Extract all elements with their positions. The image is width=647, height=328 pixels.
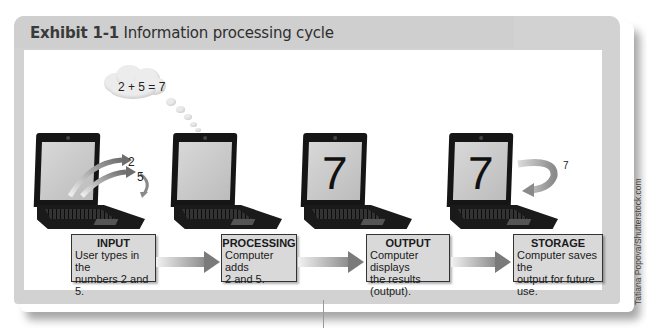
storage-arrow-icon xyxy=(516,158,566,198)
step-output-title: OUTPUT xyxy=(367,237,449,249)
thought-trail-icon xyxy=(184,114,192,120)
photo-credit: Tatiana Popova/Shutterstock.com xyxy=(633,178,643,305)
step-input-title: INPUT xyxy=(72,237,155,249)
step-storage-line2: output for future use. xyxy=(514,273,602,297)
step-input-line2: numbers 2 and 5. xyxy=(72,273,155,297)
step-storage-box: STORAGE Computer saves the output for fu… xyxy=(513,234,603,282)
thought-trail-icon xyxy=(195,128,201,132)
step-input-box: INPUT User types in the numbers 2 and 5. xyxy=(71,234,156,282)
input-value-2: 2 xyxy=(128,155,135,169)
exhibit-title: Exhibit 1-1 Information processing cycle xyxy=(30,24,334,42)
thought-trail-icon xyxy=(176,106,185,113)
arrow-right-icon xyxy=(298,253,364,271)
step-output-box: OUTPUT Computer displays the results (ou… xyxy=(366,234,450,282)
step-processing-box: PROCESSING Computer adds 2 and 5. xyxy=(221,234,297,282)
storage-value-7: 7 xyxy=(563,160,569,171)
input-arrows-icon xyxy=(60,150,160,200)
step-input-line1: User types in the xyxy=(72,249,155,273)
step-processing-line1: Computer adds xyxy=(222,249,296,273)
arrow-right-icon xyxy=(156,253,220,271)
arrow-right-icon xyxy=(451,253,511,271)
exhibit-title-text: Information processing cycle xyxy=(124,24,334,42)
step-storage-line1: Computer saves the xyxy=(514,249,602,273)
thought-bubble-text: 2 + 5 = 7 xyxy=(118,80,165,94)
step-processing-title: PROCESSING xyxy=(222,237,296,249)
step-output-line1: Computer displays xyxy=(367,249,449,273)
step-storage-title: STORAGE xyxy=(514,237,602,249)
step-processing-line2: 2 and 5. xyxy=(222,273,296,285)
exhibit-label: Exhibit 1-1 xyxy=(30,24,119,42)
thought-trail-icon xyxy=(166,98,176,106)
storage-screen-digit: 7 xyxy=(453,146,508,200)
page-divider xyxy=(323,300,324,328)
output-screen-digit: 7 xyxy=(307,146,362,200)
input-value-5: 5 xyxy=(137,170,144,184)
thought-trail-icon xyxy=(190,122,197,127)
step-output-line2: the results (output). xyxy=(367,273,449,297)
